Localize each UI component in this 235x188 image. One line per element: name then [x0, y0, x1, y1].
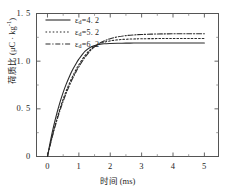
data-series-line [47, 38, 204, 156]
legend-item: εd=5. 2 [45, 27, 99, 37]
x-tick-label: 2 [99, 162, 121, 171]
x-tick-label: 3 [131, 162, 153, 171]
legend-line-swatch [45, 40, 71, 48]
x-tick-label: 4 [162, 162, 184, 171]
legend-line-swatch [45, 28, 71, 36]
chart-figure: 0 0. 5 1. 0 1. 5 0 1 2 3 4 5 时间 (ms) 荷质比… [0, 0, 235, 188]
legend-item-label: εd=5. 2 [75, 28, 99, 37]
y-axis-label-wrapper: 荷质比 (μC · kg-1) [5, 0, 19, 121]
legend-item-label: εd=6. 2 [75, 40, 99, 49]
plot-canvas [0, 0, 235, 188]
y-axis-minor-ticks [37, 37, 219, 132]
legend-item: εd=4. 2 [45, 15, 99, 25]
x-tick-label: 0 [36, 162, 58, 171]
x-tick-label: 1 [68, 162, 90, 171]
legend-line-swatch [45, 16, 71, 24]
y-axis-label: 荷质比 (μC · kg-1) [5, 0, 17, 121]
legend-item-label: εd=4. 2 [75, 16, 99, 25]
data-series-group [47, 34, 204, 157]
x-tick-label: 5 [193, 162, 215, 171]
data-series-line [47, 34, 204, 157]
legend-item: εd=6. 2 [45, 39, 99, 49]
y-tick-label: 0 [0, 152, 31, 161]
data-series-line [47, 43, 204, 156]
x-axis-label: 时间 (ms) [0, 174, 235, 186]
